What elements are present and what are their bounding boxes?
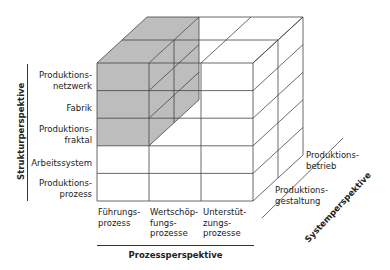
structure-axis-line	[27, 64, 28, 201]
process-level-2: Wertschöp- fungs- prozesse	[150, 207, 198, 239]
system-level-2: Produktions- betrieb	[306, 150, 359, 171]
structure-level-3: Produktions- fraktal	[28, 124, 92, 145]
system-level-1: Produktions- gestaltung	[275, 185, 328, 206]
process-axis-title: Prozessperspektive	[97, 250, 254, 261]
process-level-3: Unterstüt- zungs- prozesse	[203, 207, 246, 239]
highlight-front	[97, 63, 149, 146]
process-level-1: Führungs- prozess	[98, 207, 140, 228]
structure-level-1: Produktions- netzwerk	[28, 70, 92, 91]
process-axis-line	[97, 245, 254, 246]
structure-level-4: Arbeitssystem	[20, 158, 92, 169]
structure-level-5: Produktions- prozess	[28, 178, 92, 199]
structure-axis-title: Strukturperspektive	[16, 76, 27, 186]
structure-level-2: Fabrik	[28, 103, 92, 114]
